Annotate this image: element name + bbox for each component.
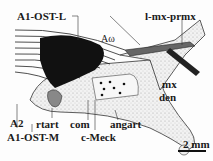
label-c-meck: c-Meck [81,132,116,143]
label-l-mx-prmx: l-mx-prmx [145,11,196,22]
label-a2: A2 [10,118,23,129]
label-a1-ost-l: A1-OST-L [17,11,66,22]
label-angart: angart [110,119,141,130]
anatomical-figure: A1-OST-L l-mx-prmx Aω mx den A2 rtart co… [0,0,213,161]
label-rtart: rtart [36,119,59,130]
label-den: den [159,92,176,103]
label-mx: mx [162,79,177,90]
label-a1-ost-m: A1-OST-M [7,132,59,143]
label-a-omega: Aω [101,34,115,44]
label-scale: 2 mm [183,139,210,150]
label-com: com [70,119,90,130]
